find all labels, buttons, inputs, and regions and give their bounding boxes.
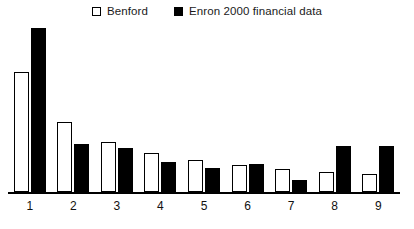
- bar-enron-9: [379, 146, 394, 192]
- x-tick-label-3: 3: [97, 196, 137, 216]
- bar-enron-8: [336, 146, 351, 192]
- x-tick-label-4: 4: [140, 196, 180, 216]
- bar-group-9: [356, 28, 400, 192]
- bar-group-1: [8, 28, 52, 192]
- bar-enron-4: [161, 162, 176, 192]
- x-tick-label-7: 7: [271, 196, 311, 216]
- x-axis-line: [8, 192, 400, 194]
- bar-enron-1: [31, 28, 46, 192]
- bar-benford-4: [144, 153, 159, 192]
- bar-group-6: [226, 28, 270, 192]
- chart-legend: Benford Enron 2000 financial data: [0, 6, 414, 18]
- bar-group-2: [52, 28, 96, 192]
- bar-benford-1: [14, 72, 29, 192]
- bar-group-7: [269, 28, 313, 192]
- x-tick-label-2: 2: [53, 196, 93, 216]
- bar-enron-6: [249, 164, 264, 192]
- bar-enron-5: [205, 168, 220, 192]
- x-tick-label-5: 5: [184, 196, 224, 216]
- bar-benford-9: [362, 174, 377, 192]
- bar-benford-8: [319, 172, 334, 192]
- bar-group-4: [139, 28, 183, 192]
- x-axis-tick-labels: 123456789: [8, 196, 400, 220]
- bar-group-8: [313, 28, 357, 192]
- bar-enron-3: [118, 148, 133, 192]
- bar-enron-2: [74, 144, 89, 192]
- bar-enron-7: [292, 180, 307, 192]
- bar-benford-6: [232, 165, 247, 192]
- legend-entry-benford: Benford: [92, 6, 148, 18]
- bar-benford-5: [188, 160, 203, 192]
- bar-benford-7: [275, 169, 290, 192]
- legend-swatch-enron-icon: [174, 7, 183, 16]
- benford-enron-bar-chart: Benford Enron 2000 financial data 123456…: [0, 0, 414, 229]
- x-tick-label-8: 8: [315, 196, 355, 216]
- legend-label-benford: Benford: [107, 6, 148, 18]
- bar-benford-3: [101, 142, 116, 192]
- legend-swatch-benford-icon: [92, 7, 101, 16]
- plot-area: [8, 28, 400, 192]
- bar-group-3: [95, 28, 139, 192]
- legend-label-enron: Enron 2000 financial data: [189, 6, 322, 18]
- x-tick-label-9: 9: [358, 196, 398, 216]
- bar-benford-2: [57, 122, 72, 192]
- bar-group-5: [182, 28, 226, 192]
- legend-entry-enron: Enron 2000 financial data: [174, 6, 322, 18]
- x-tick-label-1: 1: [10, 196, 50, 216]
- x-tick-label-6: 6: [228, 196, 268, 216]
